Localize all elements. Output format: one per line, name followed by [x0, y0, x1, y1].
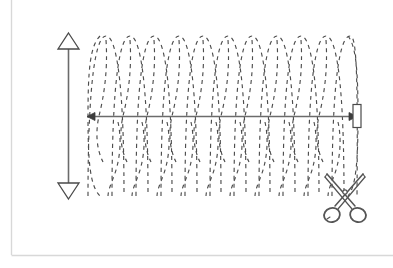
scissors-blade-right — [335, 174, 363, 206]
scissors-icon — [322, 174, 368, 224]
scissors-blade-left-edge — [325, 177, 352, 209]
scissors-blade-left-tip — [325, 174, 327, 177]
vertical-arrow-head-up — [58, 33, 79, 49]
end-cap-rectangle — [353, 105, 361, 128]
scissors-blade-right-edge — [338, 177, 365, 209]
scissors-pivot — [343, 190, 347, 194]
figure-canvas — [0, 0, 393, 268]
coil-diagram — [0, 0, 393, 268]
scissors-blade-left — [327, 174, 355, 206]
scissors-blade-right-tip — [363, 174, 365, 177]
vertical-arrow-head-down — [58, 183, 79, 199]
vertical-dimension-arrow — [58, 33, 79, 199]
